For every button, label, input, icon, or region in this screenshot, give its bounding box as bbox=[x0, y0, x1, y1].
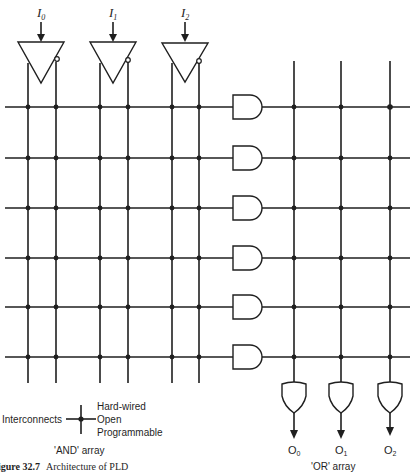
arrow-head-icon bbox=[386, 427, 394, 436]
and-gate-icon bbox=[233, 95, 262, 119]
output-label-2: O2 bbox=[384, 444, 397, 457]
and-array-input-lines bbox=[28, 62, 199, 383]
or-array-label: 'OR' array bbox=[311, 461, 355, 472]
legend-item-hard-wired: Hard-wired bbox=[97, 401, 146, 412]
and-gates bbox=[233, 95, 262, 369]
or-gate-icon bbox=[378, 382, 402, 413]
inverter-bubble-icon bbox=[197, 59, 202, 64]
interconnect-legend: Interconnects Hard-wired Open Programmab… bbox=[2, 401, 163, 438]
or-gate-2: O2 bbox=[378, 382, 402, 457]
input-label-1: I1 bbox=[108, 5, 117, 22]
input-buffer-0: I0 bbox=[18, 5, 64, 83]
legend-item-open: Open bbox=[97, 414, 121, 425]
or-gate-icon bbox=[329, 382, 353, 413]
arrow-head-icon bbox=[109, 34, 117, 42]
arrow-head-icon bbox=[181, 34, 189, 42]
or-array-lines bbox=[294, 61, 390, 384]
figure-caption: igure 32.7Architecture of PLD bbox=[0, 461, 128, 472]
and-gate-icon bbox=[233, 196, 262, 220]
and-gate-icon bbox=[233, 295, 262, 319]
or-gate-0: O0 bbox=[282, 382, 306, 457]
or-gate-1: O1 bbox=[329, 382, 353, 457]
interconnect-dots bbox=[26, 104, 393, 359]
output-label-0: O0 bbox=[288, 444, 301, 457]
arrow-head-icon bbox=[337, 430, 345, 439]
input-label-0: I0 bbox=[36, 5, 45, 22]
and-gate-icon bbox=[233, 345, 262, 369]
pld-architecture-diagram: I0 I1 I2 bbox=[0, 0, 410, 472]
product-term-lines bbox=[5, 107, 410, 357]
arrow-head-icon bbox=[37, 34, 45, 42]
and-array-label: 'AND' array bbox=[54, 445, 105, 456]
output-label-1: O1 bbox=[335, 444, 348, 457]
arrow-head-icon bbox=[290, 430, 298, 439]
inverter-bubble-icon bbox=[126, 58, 131, 63]
input-buffer-1: I1 bbox=[90, 5, 136, 83]
and-gate-icon bbox=[233, 246, 262, 270]
inverter-bubble-icon bbox=[55, 57, 60, 62]
or-gate-icon bbox=[282, 382, 306, 413]
junction-dot-icon bbox=[78, 416, 83, 421]
legend-item-programmable: Programmable bbox=[97, 427, 163, 438]
legend-title: Interconnects bbox=[2, 414, 62, 425]
input-label-2: I2 bbox=[180, 5, 189, 22]
buffer-triangle-icon bbox=[18, 42, 64, 83]
input-buffer-2: I2 bbox=[162, 5, 208, 82]
and-gate-icon bbox=[233, 146, 262, 170]
